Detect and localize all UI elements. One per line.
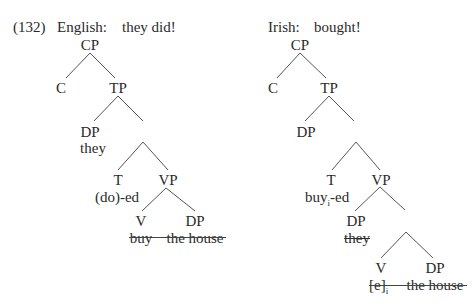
english-c-node: C bbox=[56, 80, 66, 96]
irish-subject-word-deleted: they bbox=[344, 230, 370, 246]
english-object-word-deleted: the house bbox=[166, 230, 223, 246]
irish-vp-deletion-strike bbox=[369, 285, 467, 286]
irish-tp-node: TP bbox=[320, 80, 338, 96]
irish-gloss: bought! bbox=[314, 19, 361, 35]
irish-dp-subject-node: DP bbox=[346, 213, 365, 229]
example-number: (132) bbox=[13, 19, 46, 35]
irish-c-node: C bbox=[268, 80, 278, 96]
english-cp-node: CP bbox=[81, 37, 99, 53]
english-vp-node: VP bbox=[158, 172, 177, 188]
english-tp-node: TP bbox=[109, 80, 127, 96]
irish-t-word: buyi-ed bbox=[305, 189, 349, 205]
irish-t-verb: buy bbox=[305, 189, 328, 205]
irish-label: Irish: bbox=[268, 19, 300, 35]
english-subject-word: they bbox=[80, 140, 106, 156]
english-gloss: they did! bbox=[122, 19, 176, 35]
irish-dp-spec-tp-node: DP bbox=[296, 124, 315, 140]
english-t-word: (do)-ed bbox=[95, 189, 139, 205]
english-v-word-deleted: buy bbox=[130, 230, 153, 246]
tree-edges bbox=[0, 0, 475, 303]
english-dp-subject-node: DP bbox=[80, 124, 99, 140]
irish-v-node: V bbox=[376, 260, 387, 276]
english-v-node: V bbox=[136, 213, 147, 229]
english-dp-object-node: DP bbox=[185, 213, 204, 229]
irish-t-node: T bbox=[326, 172, 335, 188]
irish-dp-object-node: DP bbox=[425, 260, 444, 276]
english-vp-deletion-strike bbox=[129, 237, 226, 238]
irish-t-suffix: -ed bbox=[330, 189, 349, 205]
irish-vp-node: VP bbox=[371, 172, 390, 188]
english-t-node: T bbox=[113, 172, 122, 188]
irish-v-index: i bbox=[386, 286, 389, 296]
english-label: English: bbox=[57, 19, 107, 35]
irish-cp-node: CP bbox=[291, 37, 309, 53]
